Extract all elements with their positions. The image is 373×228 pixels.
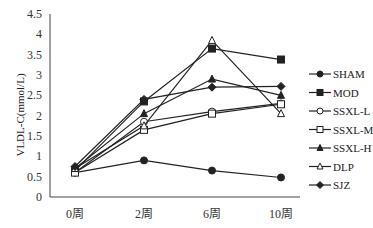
series-line (75, 49, 281, 171)
y-axis-label: VLDL-C(mmol/L) (14, 73, 27, 156)
square-marker (317, 90, 323, 96)
triangle-marker (209, 75, 216, 82)
series-line (75, 104, 281, 172)
line-chart: 00.511.522.533.544.50周2周6周10周 SHAMMODSSX… (0, 0, 373, 228)
circle-marker (141, 157, 148, 164)
legend-item-dlp: DLP (309, 161, 354, 173)
x-tick-label: 10周 (269, 207, 293, 221)
square-marker (317, 127, 323, 133)
diamond-marker (208, 83, 216, 91)
diamond-marker (317, 182, 324, 189)
square-marker (278, 101, 285, 108)
y-tick-label: 3.5 (27, 48, 42, 62)
legend-item-ssxl-l: SSXL-L (309, 105, 371, 117)
legend-item-ssxl-h: SSXL-H (309, 142, 372, 154)
circle-marker (209, 167, 216, 174)
series-line (75, 160, 281, 177)
triangle-marker (141, 110, 148, 117)
legend-label: MOD (333, 87, 359, 99)
series-line (75, 40, 281, 168)
circle-marker (278, 174, 285, 181)
legend-label: SSXL-M (333, 124, 373, 136)
circle-marker (317, 71, 323, 77)
y-tick-label: 1 (36, 149, 42, 163)
legend-item-sham: SHAM (309, 68, 365, 80)
square-marker (278, 56, 285, 63)
x-tick-label: 6周 (203, 207, 221, 221)
series-line (75, 79, 281, 168)
x-tick-label: 0周 (66, 207, 84, 221)
x-tick-label: 2周 (135, 207, 153, 221)
series-sjz (71, 82, 285, 170)
series-sham (72, 157, 285, 181)
legend-item-mod: MOD (309, 87, 359, 99)
axes: 00.511.522.533.544.50周2周6周10周 (27, 7, 300, 221)
y-tick-label: 3 (36, 68, 42, 82)
y-tick-label: 0.5 (27, 170, 42, 184)
legend: SHAMMODSSXL-LSSXL-MSSXL-HDLPSJZ (309, 68, 373, 191)
y-tick-label: 1.5 (27, 129, 42, 143)
square-marker (209, 110, 216, 117)
legend-label: DLP (333, 161, 354, 173)
diamond-marker (277, 82, 285, 90)
series-ssxl-h (72, 75, 285, 171)
series-line (75, 86, 281, 166)
square-marker (209, 45, 216, 52)
legend-label: SSXL-L (333, 105, 371, 117)
legend-item-sjz: SJZ (309, 179, 350, 191)
y-tick-label: 2 (36, 109, 42, 123)
legend-label: SHAM (333, 68, 365, 80)
y-tick-label: 2.5 (27, 88, 42, 102)
legend-label: SSXL-H (333, 142, 372, 154)
legend-item-ssxl-m: SSXL-M (309, 124, 373, 136)
series-dlp (72, 36, 285, 171)
series-lines (71, 36, 285, 181)
y-tick-label: 4.5 (27, 7, 42, 21)
triangle-marker (209, 36, 216, 43)
circle-marker (317, 108, 323, 114)
y-tick-label: 4 (36, 27, 42, 41)
y-tick-label: 0 (36, 190, 42, 204)
legend-label: SJZ (333, 179, 350, 191)
series-line (75, 103, 281, 172)
